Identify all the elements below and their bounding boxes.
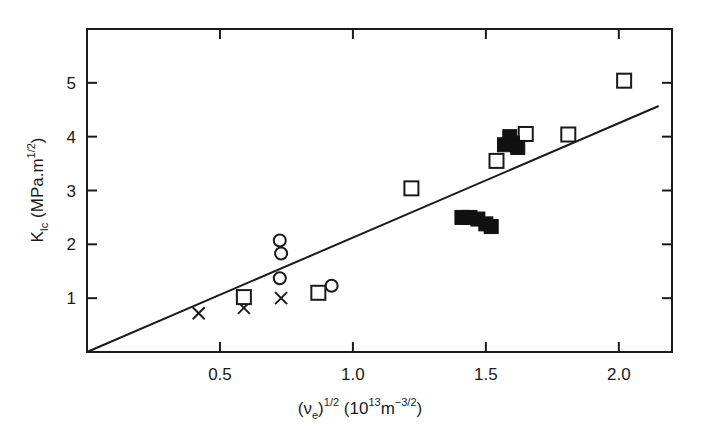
y-tick-label: 5 <box>67 74 76 93</box>
y-axis-label: KIc (MPa.m1/2) <box>25 137 50 242</box>
cross-marker <box>193 307 205 319</box>
filled-square-marker <box>484 220 498 234</box>
open-square-marker <box>237 290 251 304</box>
y-tick-label: 1 <box>67 289 76 308</box>
data-points <box>193 74 631 320</box>
y-tick-label: 4 <box>67 128 76 147</box>
open-square-marker <box>617 74 631 88</box>
open-square-marker <box>519 127 533 141</box>
x-axis-label: (νe)1/2 (1013m−3/2) <box>298 396 422 421</box>
open-square-marker <box>311 286 325 300</box>
plot-frame <box>87 29 672 352</box>
axis-ticks <box>87 29 672 352</box>
x-tick-label: 2.0 <box>607 365 631 384</box>
axis-tick-labels: 0.51.01.52.012345 <box>67 74 631 384</box>
open-square-marker <box>490 154 504 168</box>
x-tick-label: 1.5 <box>474 365 498 384</box>
open-square-marker <box>561 128 575 142</box>
open-circle-marker <box>274 272 286 284</box>
fit-line <box>87 106 659 352</box>
y-tick-label: 3 <box>67 182 76 201</box>
cross-marker <box>275 292 287 304</box>
x-tick-label: 1.0 <box>341 365 365 384</box>
regression-line <box>87 106 659 352</box>
open-circle-marker <box>274 235 286 247</box>
open-square-marker <box>404 181 418 195</box>
filled-square-marker <box>511 140 525 154</box>
open-circle-marker <box>275 247 287 259</box>
open-circle-marker <box>326 280 338 292</box>
x-tick-label: 0.5 <box>208 365 232 384</box>
y-tick-label: 2 <box>67 235 76 254</box>
scatter-chart: 0.51.01.52.012345 (νe)1/2 (1013m−3/2) KI… <box>0 0 701 441</box>
